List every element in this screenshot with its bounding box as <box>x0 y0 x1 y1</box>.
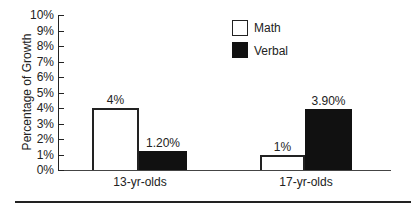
y-tick-mark <box>58 139 64 140</box>
bar-math-17 <box>260 155 305 170</box>
bar-math-13 <box>92 108 139 170</box>
y-tick-label: 1% <box>24 148 54 162</box>
y-tick-mark <box>58 77 64 78</box>
bar-verbal-17 <box>305 109 352 170</box>
legend-swatch-verbal <box>232 42 248 58</box>
value-label-verbal-17: 3.90% <box>305 94 352 108</box>
y-tick-mark <box>58 62 64 63</box>
value-label-math-13: 4% <box>92 93 139 107</box>
y-tick-mark <box>58 170 64 171</box>
y-tick-label: 5% <box>24 86 54 100</box>
y-tick-mark <box>58 155 64 156</box>
legend-label-verbal: Verbal <box>254 44 288 58</box>
y-tick-label: 7% <box>24 55 54 69</box>
y-tick-label: 0% <box>24 163 54 177</box>
x-axis-line <box>58 170 391 171</box>
y-tick-label: 6% <box>24 70 54 84</box>
y-tick-mark <box>58 93 64 94</box>
category-label-17: 17-yr-olds <box>256 175 356 189</box>
y-tick-mark <box>58 124 64 125</box>
value-label-verbal-13: 1.20% <box>139 136 187 150</box>
y-tick-mark <box>58 46 64 47</box>
bar-verbal-13 <box>139 151 187 170</box>
y-tick-label: 9% <box>24 24 54 38</box>
category-label-13: 13-yr-olds <box>90 175 190 189</box>
y-tick-mark <box>58 15 64 16</box>
y-tick-label: 3% <box>24 117 54 131</box>
legend-label-math: Math <box>254 21 281 35</box>
chart: Percentage of Growth 0%1%2%3%4%5%6%7%8%9… <box>0 0 411 203</box>
y-tick-label: 4% <box>24 101 54 115</box>
bottom-rule <box>15 201 411 203</box>
legend-swatch-math <box>232 20 248 36</box>
value-label-math-17: 1% <box>260 140 305 154</box>
y-tick-mark <box>58 108 64 109</box>
y-tick-label: 10% <box>24 8 54 22</box>
y-tick-label: 8% <box>24 39 54 53</box>
y-tick-mark <box>58 31 64 32</box>
y-tick-label: 2% <box>24 132 54 146</box>
